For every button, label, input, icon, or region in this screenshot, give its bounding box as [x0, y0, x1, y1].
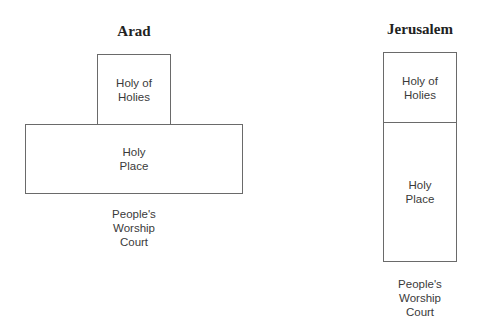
arad-worship-court-label: People's Worship Court: [84, 207, 184, 249]
arad-holy-of-holies-label: Holy of Holies: [116, 76, 152, 104]
arad-holy-place-label: Holy Place: [120, 145, 149, 173]
arad-title: Arad: [84, 23, 184, 40]
jerusalem-holy-place: Holy Place: [383, 122, 457, 262]
jerusalem-worship-court-label: People's Worship Court: [370, 277, 470, 319]
jerusalem-holy-of-holies: Holy of Holies: [383, 52, 457, 123]
jerusalem-holy-of-holies-label: Holy of Holies: [402, 74, 438, 102]
arad-holy-of-holies: Holy of Holies: [97, 54, 171, 125]
jerusalem-holy-place-label: Holy Place: [406, 178, 435, 206]
arad-holy-place: Holy Place: [25, 124, 243, 194]
jerusalem-title: Jerusalem: [370, 21, 470, 38]
